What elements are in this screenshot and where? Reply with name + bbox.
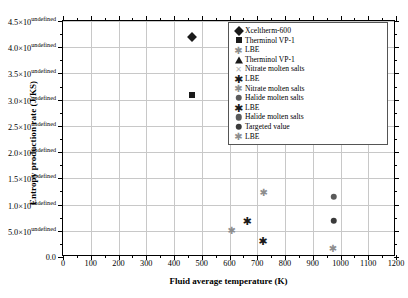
legend-label: Nitrate molten salts [245,84,304,94]
data-point: ✱ [228,226,236,233]
y-tick-right [394,21,399,22]
y-tick-right [394,205,399,206]
legend-label: Halide molten salts [245,112,304,122]
legend-item[interactable]: ✱Nitrate molten salts [232,84,383,94]
marker-star-lt-icon: ✱ [234,85,243,92]
y-tick-minor-right [394,218,397,219]
legend-item[interactable]: ✱LBE [232,74,383,84]
gridline-vertical [119,21,120,255]
legend-label: LBE [245,132,259,142]
x-tick-minor [188,255,189,258]
y-tick-minor [60,60,63,61]
y-tick-minor [60,244,63,245]
y-tick-right [394,100,399,101]
x-tick-label: 900 [307,259,319,268]
marker-circle-icon [330,193,337,200]
legend-label: LBE [245,74,259,84]
y-tick-label: 1.0×10undefined [8,199,56,211]
legend-item[interactable]: ✱LBE [232,132,383,142]
legend-marker [232,112,245,122]
y-tick-label: 1.5×10undefined [8,172,56,184]
data-point [330,193,337,200]
y-tick [58,205,63,206]
legend-marker [232,55,245,65]
y-tick [58,178,63,179]
data-point: ✱ [330,244,338,251]
legend-label: LBE [245,45,259,55]
y-tick-right [394,47,399,48]
gridline-horizontal [63,205,394,206]
chart-figure: Entropy production rate (J/KS) 010020030… [0,0,408,298]
legend-item[interactable]: ✱LBE [232,45,383,55]
marker-star-lt-icon: ✱ [329,244,338,251]
marker-circle-dk-icon [330,218,337,225]
legend-marker: ✱ [232,45,245,55]
x-tick-label: 600 [223,259,235,268]
x-tick-label: 700 [251,259,263,268]
legend-label: Halide molten salts [245,93,304,103]
x-tick-label: 0 [61,259,65,268]
marker-star-icon: ✱ [234,75,243,82]
y-tick-right [394,152,399,153]
legend-item[interactable]: Therminol VP-1 [232,55,383,65]
legend-item[interactable]: Halide molten salts [232,93,383,103]
gridline-horizontal [63,178,394,179]
x-tick-minor [354,255,355,258]
legend-item[interactable]: Therminol VP-1 [232,36,383,46]
x-tick-label: 200 [112,259,124,268]
legend-item[interactable]: Targeted value [232,122,383,132]
x-tick-label: 400 [168,259,180,268]
x-tick-minor [243,255,244,258]
y-tick-minor-right [394,165,397,166]
y-tick-right [394,231,399,232]
marker-star-lt-icon: ✱ [227,226,236,233]
gridline-vertical [146,21,147,255]
y-tick-minor [60,139,63,140]
legend-marker: ✱ [232,103,245,113]
y-tick [58,152,63,153]
gridline-horizontal [63,152,394,153]
x-tick-label: 100 [85,259,97,268]
y-tick-minor-right [394,113,397,114]
legend-label: Targeted value [245,122,290,132]
y-tick-minor-right [394,191,397,192]
y-tick-label: 0.0 [46,253,56,262]
x-axis-title: Fluid average temperature (K) [62,276,395,286]
x-tick-minor [105,255,106,258]
legend-item[interactable]: Halide molten salts [232,112,383,122]
x-tick-label: 1000 [332,259,349,268]
legend-marker: ✱ [232,132,245,142]
y-tick [58,100,63,101]
x-tick-minor [382,255,383,258]
y-tick-right [394,73,399,74]
legend-item[interactable]: ✕Nitrate molten salts [232,64,383,74]
data-point [189,92,195,98]
y-tick [58,47,63,48]
y-tick-label: 3.5×10undefined [8,68,56,80]
y-tick-minor [60,191,63,192]
legend-label: Therminol VP-1 [245,55,295,65]
y-tick-label: 4.0×10undefined [8,41,56,53]
marker-diamond-icon [187,32,197,42]
marker-diamond-icon [234,26,244,36]
x-tick-label: 1100 [360,259,376,268]
y-tick [58,231,63,232]
y-tick-label: 2.5×10undefined [8,120,56,132]
marker-circle-icon [235,114,242,121]
legend-item[interactable]: Xceltherm-600 [232,26,383,36]
marker-star-lt-icon: ✱ [234,133,243,140]
x-tick-minor [77,255,78,258]
y-axis-title: Entropy production rate (J/KS) [28,28,38,258]
x-tick-minor [216,255,217,258]
data-point [330,218,337,225]
x-tick-minor [160,255,161,258]
marker-star-icon: ✱ [258,237,267,244]
legend-item[interactable]: ✱LBE [232,103,383,113]
x-tick-label: 500 [196,259,208,268]
data-point: ✱ [260,189,268,196]
x-tick-minor [327,255,328,258]
y-tick-minor-right [394,34,397,35]
y-tick-minor-right [394,87,397,88]
marker-star-icon: ✱ [234,104,243,111]
y-tick-label: 2.0×10undefined [8,146,56,158]
